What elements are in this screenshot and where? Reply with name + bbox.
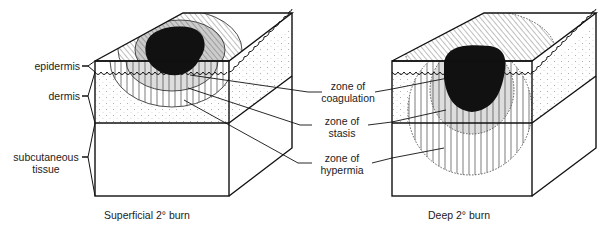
label-zone-hypermia-2: hypermia	[312, 164, 372, 176]
label-zone-stasis-1: zone of	[312, 115, 372, 127]
deep-burn-block	[392, 9, 596, 196]
label-tissue: tissue	[12, 163, 80, 175]
label-epidermis: epidermis	[22, 60, 80, 72]
label-subcutaneous: subcutaneous	[12, 151, 80, 163]
caption-deep-burn: Deep 2° burn	[428, 209, 490, 221]
label-zone-coagulation-2: coagulation	[318, 92, 378, 104]
layer-brackets	[82, 61, 95, 196]
label-zone-stasis-2: stasis	[312, 127, 372, 139]
label-zone-hypermia-1: zone of	[312, 152, 372, 164]
label-zone-coagulation-1: zone of	[318, 80, 378, 92]
burn-depth-diagram	[0, 0, 607, 226]
caption-superficial-burn: Superficial 2° burn	[104, 209, 190, 221]
label-dermis: dermis	[22, 90, 80, 102]
superficial-burn-block	[95, 9, 292, 196]
